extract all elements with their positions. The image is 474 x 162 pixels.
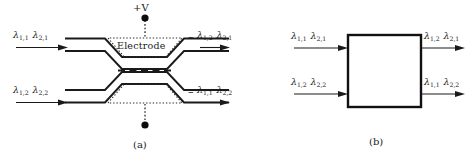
lambda-sub: 2,1: [450, 35, 460, 42]
lambda-sub: 1,2: [297, 81, 307, 88]
lambda-term: λ: [33, 84, 39, 95]
lambda-term: λ: [311, 30, 317, 41]
lambda-term: λ: [311, 76, 317, 87]
panel-b-input-bottom-label: λ1,2λ2,2: [291, 77, 326, 87]
lambda-sub: 1,1: [297, 35, 307, 42]
lambda-sub: 2,1: [223, 34, 233, 41]
lambda-sub: 2,1: [39, 34, 49, 41]
panel-a-input-bottom-label: λ1,2λ2,2: [13, 85, 48, 95]
lambda-sub: 1,2: [203, 34, 213, 41]
figure-canvas: +V Electrode λ1,1λ2,1 λ1,2λ2,2 λ1,2λ2,1 …: [0, 0, 474, 162]
output-top-minus-sign: –: [188, 31, 194, 42]
panel-b-graphics: [294, 35, 465, 107]
panel-a-caption: (a): [133, 140, 147, 150]
panel-b-output-top-label: λ1,2λ2,1: [424, 31, 459, 41]
panel-b-output-arrow-bottom: [421, 91, 465, 97]
panel-b-output-bottom-label: λ1,1λ2,2: [424, 77, 459, 87]
lambda-sub: 1,2: [19, 89, 29, 96]
electrode-top-terminal-dot: [141, 14, 148, 21]
lambda-sub: 1,1: [430, 81, 440, 88]
lambda-sub: 2,2: [317, 81, 327, 88]
device-block: [348, 35, 421, 107]
lambda-sub: 1,1: [19, 34, 29, 41]
lambda-term: λ: [217, 84, 223, 95]
figure-svg: [0, 0, 474, 162]
panel-b-caption: (b): [369, 137, 383, 147]
lambda-sub: 1,2: [430, 35, 440, 42]
lambda-term: λ: [444, 76, 450, 87]
input-arrow-bottom: [16, 99, 68, 105]
panel-a-output-top-label: λ1,2λ2,1: [197, 30, 232, 40]
voltage-label: +V: [133, 3, 149, 13]
panel-b-input-arrow-bottom: [294, 91, 348, 97]
lambda-term: λ: [217, 29, 223, 40]
lambda-sub: 2,1: [317, 35, 327, 42]
waveguide-upper-inner: [65, 51, 229, 69]
electrode-bottom-terminal-dot: [141, 121, 148, 128]
output-arrow-top: [200, 44, 230, 50]
lambda-term: λ: [444, 30, 450, 41]
panel-a-output-bottom-label: λ1,1λ2,2: [197, 85, 232, 95]
output-bottom-minus-sign: –: [188, 86, 194, 97]
lambda-sub: 2,2: [450, 81, 460, 88]
input-arrow-top: [16, 44, 68, 50]
panel-a-input-top-label: λ1,1λ2,1: [13, 30, 48, 40]
panel-b-output-arrow-top: [421, 45, 465, 51]
panel-b-input-arrow-top: [294, 45, 348, 51]
lambda-sub: 2,2: [39, 89, 49, 96]
lambda-term: λ: [33, 29, 39, 40]
electrode-label: Electrode: [117, 41, 166, 51]
lambda-sub: 1,1: [203, 89, 213, 96]
panel-b-input-top-label: λ1,1λ2,1: [291, 31, 326, 41]
lambda-sub: 2,2: [223, 89, 233, 96]
